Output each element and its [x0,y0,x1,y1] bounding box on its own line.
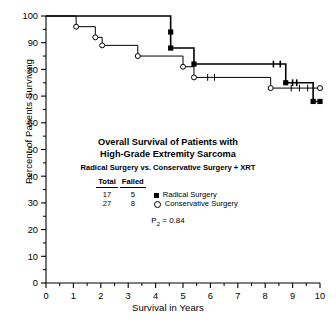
data-point-open-circle [181,64,186,69]
x-tick-label: 4 [153,291,158,301]
x-tick-label: 6 [208,291,213,301]
data-point-open-circle [268,86,273,91]
data-point-open-circle [135,54,140,59]
pvalue-value: 0.84 [169,216,185,225]
open-circle-icon [154,201,161,208]
data-point-filled-square [191,61,196,66]
pvalue-subscript: 2 [157,221,160,227]
pvalue-equals: = [162,216,167,225]
data-point-filled-square [168,29,173,34]
header-failed: Failed [119,177,147,186]
survival-chart-figure: 0102030405060708090100012345678910 Perce… [0,0,336,322]
cell-failed-radical: 5 [119,190,147,199]
cell-total-radical: 17 [95,190,119,199]
legend-table-wrap: Total Failed 17 5 Radical Surgery 27 8 C… [0,177,336,208]
legend-table: Total Failed 17 5 Radical Surgery 27 8 C… [95,177,241,208]
y-tick-label: 10 [28,252,38,262]
x-tick-label: 3 [126,291,131,301]
filled-square-icon [154,193,159,198]
chart-title-line2: High-Grade Extremity Sarcoma [0,149,336,159]
x-tick-label: 9 [290,291,295,301]
table-header-row: Total Failed [95,177,241,186]
data-point-open-circle [93,35,98,40]
x-tick-label: 7 [235,291,240,301]
x-tick-label: 2 [98,291,103,301]
data-point-open-circle [318,86,323,91]
legend-entry-radical: Radical Surgery [147,190,241,199]
header-total: Total [95,177,119,186]
x-tick-label: 1 [71,291,76,301]
data-point-open-circle [100,43,105,48]
cell-failed-conservative: 8 [119,199,147,208]
cell-total-conservative: 27 [95,199,119,208]
legend-label-radical: Radical Surgery [163,190,217,199]
header-spacer [147,177,241,186]
y-tick-label: 100 [22,11,38,21]
x-tick-label: 0 [43,291,48,301]
chart-subtitle: Radical Surgery vs. Conservative Surgery… [0,163,336,172]
y-tick-label: 0 [33,278,38,288]
series-line-conservative [46,16,320,88]
x-tick-label: 10 [315,291,325,301]
plot-canvas: 0102030405060708090100012345678910 [0,0,336,322]
data-point-open-circle [74,24,79,29]
table-row: 17 5 Radical Surgery [95,190,241,199]
data-point-filled-square [283,80,288,85]
x-tick-label: 8 [263,291,268,301]
x-axis-title: Survival in Years [0,302,336,313]
data-point-filled-square [311,99,316,104]
data-point-open-circle [191,75,196,80]
chart-title-line1: Overall Survival of Patients with [0,137,336,147]
data-point-filled-square [317,99,322,104]
table-row: 27 8 Conservative Surgery [95,199,241,208]
data-point-filled-square [168,45,173,50]
legend-entry-conservative: Conservative Surgery [147,199,241,208]
pvalue-annotation: P2 = 0.84 [0,216,336,227]
legend-label-conservative: Conservative Surgery [165,199,238,208]
x-tick-label: 5 [180,291,185,301]
